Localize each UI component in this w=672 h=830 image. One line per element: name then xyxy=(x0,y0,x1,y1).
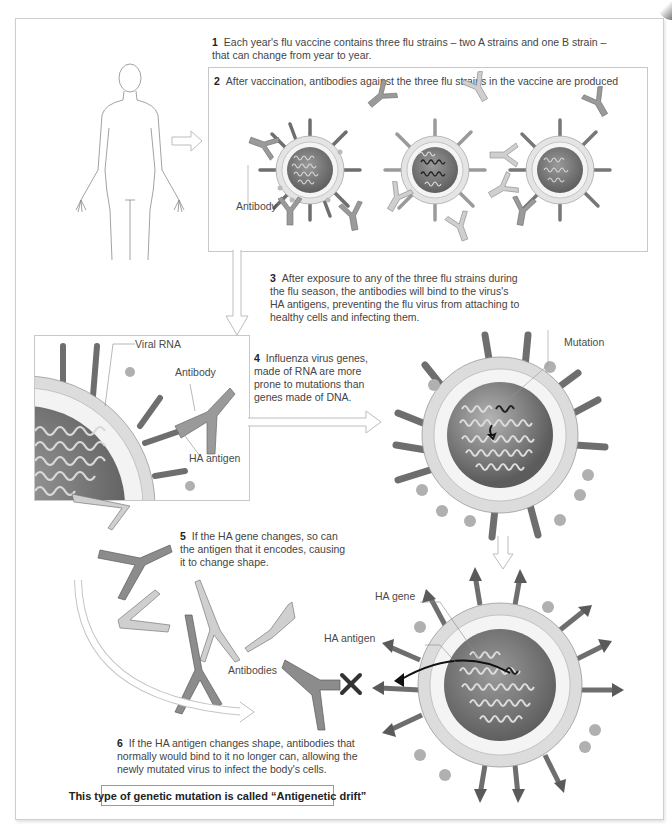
step-4: 4Influenza virus genes, made of RNA are … xyxy=(254,352,386,404)
page-curl xyxy=(658,0,672,20)
mutated-virus-illustration xyxy=(330,565,670,825)
step-2: 2After vaccination, antibodies against t… xyxy=(214,75,644,88)
viral-rna-label: Viral RNA xyxy=(135,338,181,350)
antibodies-group-illustration xyxy=(0,490,340,730)
antibodies-label: Antibodies xyxy=(228,664,277,676)
antibody-binding-detail-panel: Viral RNA Antibody HA antigen xyxy=(34,335,250,501)
arrow-down-icon xyxy=(225,250,249,336)
arrow-right-icon xyxy=(248,410,382,434)
conclusion-callout: This type of genetic mutation is called … xyxy=(101,785,334,806)
ha-gene-label: HA gene xyxy=(375,590,415,602)
virus-strain-group xyxy=(230,95,640,245)
blocked-binding-x-icon xyxy=(342,675,360,693)
ha-antigen-label-mutated: HA antigen xyxy=(324,632,375,644)
step-6: 6If the HA antigen changes shape, antibo… xyxy=(117,737,387,776)
antibody-label-detail: Antibody xyxy=(175,366,216,378)
virus-strain-b xyxy=(510,120,610,220)
step-3: 3After exposure to any of the three flu … xyxy=(270,272,520,324)
ha-antigen-label-detail: HA antigen xyxy=(189,452,240,464)
mutation-label: Mutation xyxy=(564,336,604,348)
virus-strain-a2 xyxy=(385,120,485,220)
mutating-virus-illustration xyxy=(380,320,640,530)
step-1: 1Each year's flu vaccine contains three … xyxy=(212,36,612,62)
antibody-label-step2: Antibody xyxy=(236,200,277,212)
human-body-illustration xyxy=(60,60,200,260)
virus-detail-illustration xyxy=(35,336,249,500)
arrow-right-icon xyxy=(171,130,203,152)
